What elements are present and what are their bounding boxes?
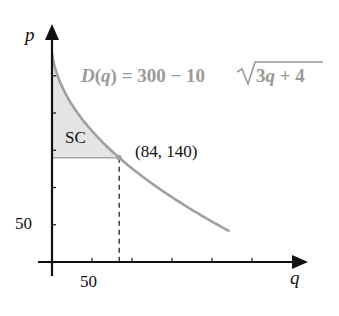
equilibrium-point: [117, 155, 122, 160]
y-axis-arrow-icon: [45, 24, 59, 40]
formula-lhs: D(q) = 300 − 10: [80, 65, 205, 87]
demand-curve-chart: p q 50 50 SC (84, 140) D(q) = 300 − 10 3…: [0, 0, 339, 316]
x-tick-label-50: 50: [80, 272, 97, 291]
point-label: (84, 140): [135, 142, 197, 161]
y-tick-label-50: 50: [15, 214, 32, 233]
formula-radicand: 3q + 4: [256, 65, 305, 86]
demand-formula: D(q) = 300 − 10 3q + 4: [80, 62, 323, 87]
p-axis-label: p: [23, 24, 35, 45]
surplus-label: SC: [65, 128, 86, 147]
q-axis-label: q: [290, 267, 300, 288]
